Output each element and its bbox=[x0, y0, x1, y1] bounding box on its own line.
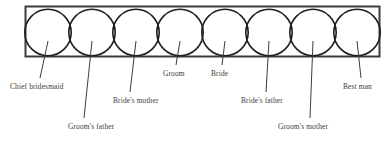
person-label-groom: Groom bbox=[163, 69, 185, 78]
receiving-line-diagram: Chief bridesmaidGroom's fatherBride's mo… bbox=[0, 0, 390, 144]
person-label-grooms-father: Groom's father bbox=[68, 122, 115, 131]
person-label-bride: Bride bbox=[211, 69, 229, 78]
person-label-chief-bridesmaid: Chief bridesmaid bbox=[10, 82, 64, 91]
diagram-canvas: Chief bridesmaidGroom's fatherBride's mo… bbox=[0, 0, 390, 144]
person-label-brides-father: Bride's father bbox=[241, 96, 283, 105]
person-label-grooms-mother: Groom's mother bbox=[278, 122, 328, 131]
diagram-background bbox=[0, 0, 390, 144]
person-label-best-man: Best man bbox=[343, 82, 372, 91]
person-label-brides-mother: Bride's mother bbox=[113, 96, 159, 105]
